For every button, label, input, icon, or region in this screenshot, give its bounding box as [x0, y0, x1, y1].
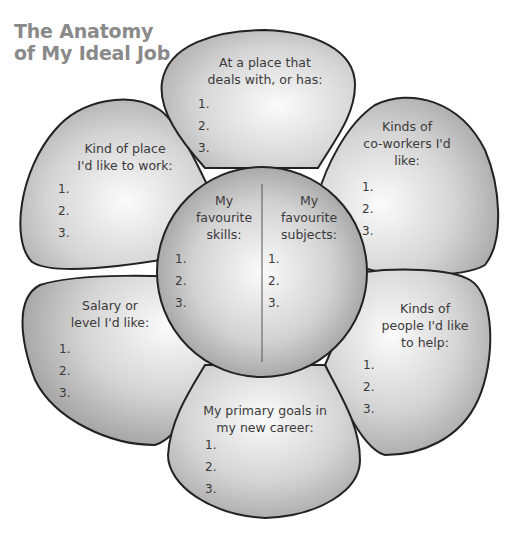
petal-bottom-item-2[interactable]: 2. — [205, 460, 216, 474]
petal-upper-left-item-1[interactable]: 1. — [58, 182, 69, 196]
petal-upper-right-item-3[interactable]: 3. — [362, 224, 373, 238]
petal-top-item-1[interactable]: 1. — [198, 97, 209, 111]
heading-line: level I'd like: — [50, 314, 170, 331]
center-left-heading: My favourite skills: — [188, 192, 260, 243]
center-left-item-3[interactable]: 3. — [175, 296, 186, 310]
heading-line: At a place that — [200, 54, 330, 71]
petal-lower-left-item-2[interactable]: 2. — [59, 364, 70, 378]
heading-line: favourite — [270, 209, 348, 226]
heading-line: my new career: — [195, 419, 335, 436]
heading-line: Kinds of — [352, 118, 462, 135]
center-right-heading: My favourite subjects: — [270, 192, 348, 243]
petal-lower-right-heading: Kinds of people I'd like to help: — [365, 300, 485, 351]
heading-line: Kind of place — [70, 140, 180, 157]
heading-line: to help: — [365, 334, 485, 351]
petal-lower-right-item-1[interactable]: 1. — [363, 358, 374, 372]
petal-bottom — [168, 365, 360, 518]
heading-line: Kinds of — [365, 300, 485, 317]
heading-line: subjects: — [270, 226, 348, 243]
petal-top — [162, 30, 355, 168]
petal-bottom-item-3[interactable]: 3. — [205, 482, 216, 496]
petal-upper-left-item-3[interactable]: 3. — [58, 226, 69, 240]
heading-line: My — [270, 192, 348, 209]
petal-top-item-2[interactable]: 2. — [198, 119, 209, 133]
center-right-item-3[interactable]: 3. — [268, 296, 279, 310]
heading-line: like: — [352, 152, 462, 169]
petal-bottom-item-1[interactable]: 1. — [205, 438, 216, 452]
center-left-item-2[interactable]: 2. — [175, 274, 186, 288]
petal-upper-left-heading: Kind of place I'd like to work: — [70, 140, 180, 174]
center-right-item-2[interactable]: 2. — [268, 274, 279, 288]
heading-line: Salary or — [50, 297, 170, 314]
petal-lower-right-item-3[interactable]: 3. — [363, 402, 374, 416]
petal-lower-right-item-2[interactable]: 2. — [363, 380, 374, 394]
center-right-item-1[interactable]: 1. — [268, 252, 279, 266]
petal-lower-left-heading: Salary or level I'd like: — [50, 297, 170, 331]
petal-upper-right-item-1[interactable]: 1. — [362, 180, 373, 194]
heading-line: skills: — [188, 226, 260, 243]
petal-bottom-heading: My primary goals in my new career: — [195, 402, 335, 436]
petal-upper-right-heading: Kinds of co-workers I'd like: — [352, 118, 462, 169]
petal-lower-left-item-3[interactable]: 3. — [59, 386, 70, 400]
petal-lower-left-item-1[interactable]: 1. — [59, 342, 70, 356]
heading-line: people I'd like — [365, 317, 485, 334]
heading-line: favourite — [188, 209, 260, 226]
heading-line: My — [188, 192, 260, 209]
petal-upper-left-item-2[interactable]: 2. — [58, 204, 69, 218]
petal-top-heading: At a place that deals with, or has: — [200, 54, 330, 88]
heading-line: deals with, or has: — [200, 71, 330, 88]
petal-top-item-3[interactable]: 3. — [198, 141, 209, 155]
heading-line: I'd like to work: — [70, 157, 180, 174]
heading-line: co-workers I'd — [352, 135, 462, 152]
heading-line: My primary goals in — [195, 402, 335, 419]
petal-upper-right-item-2[interactable]: 2. — [362, 202, 373, 216]
center-left-item-1[interactable]: 1. — [175, 252, 186, 266]
